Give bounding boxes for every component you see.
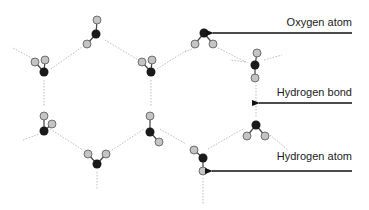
water-molecule (191, 29, 217, 49)
oxygen-atom (200, 29, 209, 38)
oxygen-atom (146, 128, 155, 137)
hydrogen-atom (146, 112, 154, 120)
hydrogen-bond-line (208, 129, 243, 149)
hydrogen-bond-line (160, 129, 186, 144)
hydrogen-bond-line (50, 129, 83, 150)
water-molecule (251, 49, 262, 82)
water-molecule (84, 150, 110, 169)
hydrogen-atom (261, 132, 269, 140)
water-molecule (190, 146, 208, 175)
water-hydrogen-bond-diagram (0, 0, 369, 210)
hydrogen-atom (253, 49, 261, 57)
hydrogen-atom (148, 56, 156, 64)
oxygen-atom (147, 68, 156, 77)
water-molecule (138, 56, 156, 77)
hydrogen-atom (251, 74, 259, 82)
oxygen-atom (199, 154, 208, 163)
hydrogen-atom (191, 40, 199, 48)
hydrogen-bond-line (112, 129, 144, 150)
water-molecule (83, 16, 101, 48)
hydrogen-bond-line (270, 135, 288, 150)
water-molecule (40, 112, 57, 136)
oxygen-atom (40, 127, 49, 136)
hydrogen-bond-line (264, 55, 282, 60)
oxygen-atom (40, 68, 49, 77)
hydrogen-atom (48, 120, 56, 128)
oxygen-atom (252, 121, 261, 130)
hydrogen-bond-line (105, 40, 140, 61)
water-molecules-layer (31, 16, 269, 175)
hydrogen-atom (41, 56, 49, 64)
hydrogen-atom (93, 16, 101, 24)
oxygen-atom-label: Oxygen atom (287, 16, 352, 28)
oxygen-atom (251, 61, 260, 70)
hydrogen-atom (40, 112, 48, 120)
hydrogen-atom (199, 167, 207, 175)
hydrogen-atom (31, 58, 39, 66)
oxygen-atom (93, 160, 102, 169)
water-molecule (243, 121, 269, 141)
water-molecule (31, 56, 49, 77)
hydrogen-bond-line (23, 134, 39, 140)
hydrogen-atom-label: Hydrogen atom (277, 150, 352, 162)
hydrogen-bond-line (51, 47, 82, 69)
hydrogen-atom (155, 138, 163, 146)
hydrogen-atom (209, 40, 217, 48)
hydrogen-atom (84, 150, 92, 158)
hydrogen-atom (83, 40, 91, 48)
oxygen-atom (92, 30, 101, 39)
hydrogen-bond-label: Hydrogen bond (277, 86, 352, 98)
hydrogen-bond-line (157, 50, 187, 69)
hydrogen-atom (243, 132, 251, 140)
hydrogen-atom (102, 150, 110, 158)
hydrogen-atom (138, 58, 146, 66)
hydrogen-atom (190, 146, 198, 154)
